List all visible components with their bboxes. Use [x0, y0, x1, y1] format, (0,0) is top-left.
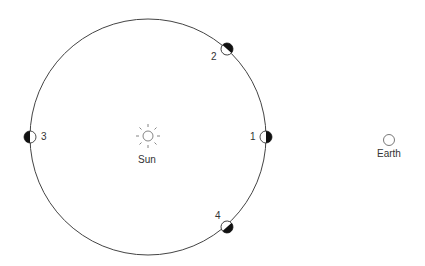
- sun-label: Sun: [138, 155, 156, 165]
- moon-phase-3-icon: [24, 131, 36, 143]
- moon-label-1: 1: [250, 132, 256, 142]
- earth-icon: [384, 135, 395, 146]
- sun-icon: [136, 124, 160, 148]
- orbit-circle: [30, 19, 266, 255]
- earth-label: Earth: [377, 149, 401, 159]
- moon-phase-4-icon: [219, 219, 236, 236]
- moon-phase-1-icon: [260, 131, 272, 143]
- diagram-canvas: [0, 0, 425, 266]
- moon-label-3: 3: [41, 132, 47, 142]
- moon-label-2: 2: [211, 52, 217, 62]
- moon-label-4: 4: [215, 211, 221, 221]
